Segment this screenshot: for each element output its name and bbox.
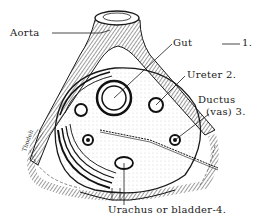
gut-number: 1. (242, 38, 252, 48)
urachus-label: Urachus or bladder-4. (108, 205, 226, 215)
ductus-label: Ductus (198, 95, 235, 105)
ductus-vas-label: (vas) 3. (206, 107, 246, 117)
anatomical-figure: Aorta Gut 1. Ureter 2. Ductus (vas) 3. U… (0, 0, 258, 223)
aorta-label: Aorta (10, 28, 40, 38)
gut-label: Gut (173, 38, 192, 48)
ureter-label: Ureter 2. (187, 70, 236, 80)
